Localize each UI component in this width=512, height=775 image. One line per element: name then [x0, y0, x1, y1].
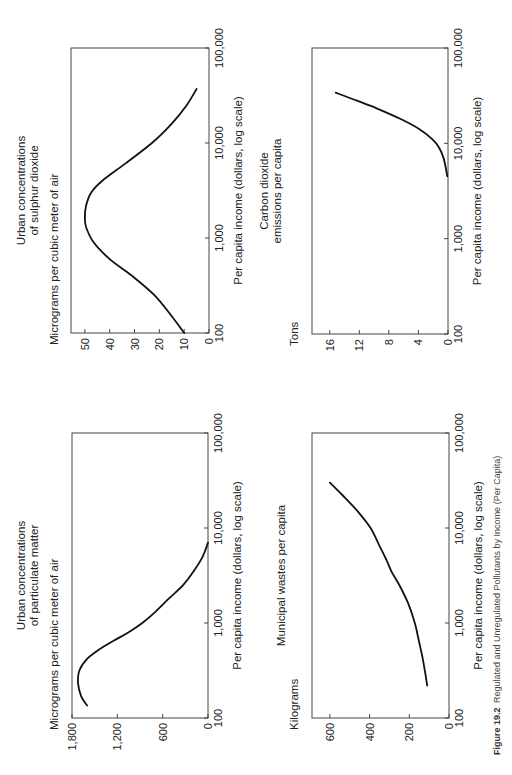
y-axis-label: Kilograms [288, 679, 300, 730]
y-tick-label: 600 [324, 723, 336, 741]
x-tick-label: 100,000 [212, 413, 224, 453]
series-line-municipal-waste [330, 483, 427, 686]
chart-title: Urban concentrations [15, 136, 27, 246]
x-tick-label: 100,000 [453, 413, 465, 453]
series-line-co2 [336, 93, 448, 177]
chart-co2: Carbon dioxideemissions per capitaTons04… [258, 28, 483, 351]
chart-title: emissions per capita [271, 138, 283, 243]
y-tick-label: 8 [383, 339, 395, 345]
y-tick-label: 40 [104, 338, 116, 350]
series-line-so2 [85, 89, 197, 333]
y-tick-label: 16 [324, 339, 336, 351]
series-line-particulates [78, 543, 208, 706]
y-axis-label: Tons [288, 321, 300, 346]
y-tick-label: 400 [364, 723, 376, 741]
x-tick-label: 1,000 [452, 225, 464, 253]
x-tick-label: 100,000 [213, 28, 225, 68]
x-tick-label: 100 [452, 325, 464, 343]
chart-title: Municipal wastes per capita [275, 504, 287, 646]
x-tick-label: 1,000 [212, 609, 224, 637]
x-tick-label: 100 [453, 709, 465, 727]
plot-frame [312, 433, 449, 718]
x-tick-label: 1,000 [453, 609, 465, 637]
y-axis-label: Micrograms per cubic meter of air [48, 174, 60, 345]
y-tick-label: 200 [403, 723, 415, 741]
x-axis-label: Per capita income (dollars, log scale) [472, 481, 484, 670]
y-tick-label: 30 [129, 338, 141, 350]
x-axis-label: Per capita income (dollars, log scale) [231, 481, 243, 670]
figure-caption-text: Regulated and Unregulated Pollutants by … [492, 456, 502, 703]
x-tick-label: 100,000 [452, 28, 464, 68]
chart-title: of sulphur dioxide [28, 145, 40, 235]
figure-label: Figure 19.2 [492, 707, 502, 755]
chart-municipal-waste: Municipal wastes per capitaKilograms0200… [275, 413, 484, 741]
x-tick-label: 100 [212, 709, 224, 727]
y-axis-label: Micrograms per cubic meter of air [48, 559, 60, 730]
chart-title: of particulate matter [28, 525, 40, 627]
plot-frame [312, 48, 448, 334]
y-tick-label: 1,800 [66, 723, 78, 751]
x-tick-label: 10,000 [453, 511, 465, 545]
x-tick-label: 10,000 [212, 511, 224, 545]
x-axis-label: Per capita income (dollars, log scale) [471, 97, 483, 286]
chart-title: Carbon dioxide [258, 152, 270, 229]
plot-frame [72, 433, 208, 718]
chart-particulates: Urban concentrationsof particulate matte… [15, 413, 243, 750]
y-tick-label: 10 [178, 338, 190, 350]
figure-canvas: Urban concentrationsof sulphur dioxideMi… [0, 0, 512, 775]
x-tick-label: 10,000 [452, 127, 464, 161]
chart-title: Urban concentrations [15, 521, 27, 631]
x-axis-label: Per capita income (dollars, log scale) [232, 96, 244, 285]
y-tick-label: 20 [153, 338, 165, 350]
y-tick-label: 600 [157, 723, 169, 741]
figure-caption: Figure 19.2 Regulated and Unregulated Po… [492, 456, 502, 755]
x-tick-label: 100 [213, 324, 225, 342]
y-tick-label: 50 [79, 338, 91, 350]
y-tick-label: 12 [353, 339, 365, 351]
x-tick-label: 10,000 [213, 126, 225, 160]
y-tick-label: 1,200 [111, 723, 123, 751]
chart-so2: Urban concentrationsof sulphur dioxideMi… [15, 28, 244, 350]
x-tick-label: 1,000 [213, 224, 225, 252]
y-tick-label: 4 [412, 339, 424, 345]
